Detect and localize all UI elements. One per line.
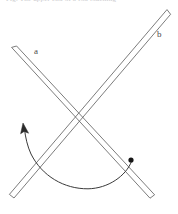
- diagram-canvas: [0, 0, 178, 214]
- motion-arc-path: [24, 129, 131, 189]
- figure-root: Fig. The upper end of a rod touching a b: [0, 0, 178, 214]
- rod-label-a: a: [34, 47, 38, 56]
- pivot-point-marker: [128, 157, 133, 162]
- rod-b-outline: [9, 10, 170, 198]
- rod-b: [9, 10, 170, 198]
- motion-arrow: [21, 123, 132, 189]
- rod-label-b: b: [157, 30, 162, 39]
